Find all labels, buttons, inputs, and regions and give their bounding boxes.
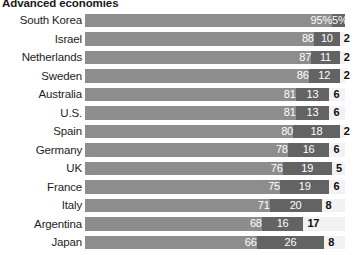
bar-value-tertiary: 2 — [344, 32, 350, 46]
bar-area: 681617 — [85, 217, 345, 231]
row-category-label: Spain — [0, 124, 82, 138]
row-category-label: France — [0, 180, 82, 194]
bar-value-secondary: 13 — [296, 106, 330, 120]
bar-area: 88102 — [85, 32, 345, 46]
row-category-label: Germany — [0, 143, 82, 157]
bar-area: 80182 — [85, 125, 345, 139]
row-category-label: Netherlands — [0, 50, 82, 64]
bar-value-tertiary: 8 — [326, 199, 332, 213]
chart-row: Spain80182 — [0, 124, 356, 143]
chart-row: U.S.81136 — [0, 106, 356, 125]
chart-row: Argentina681617 — [0, 217, 356, 236]
bar-value-primary: 66 — [85, 236, 261, 250]
bar-value-tertiary: 2 — [344, 69, 350, 83]
chart-row: Netherlands87112 — [0, 50, 356, 69]
chart-row: France75196 — [0, 180, 356, 199]
bar-area: 78166 — [85, 143, 345, 157]
bar-area: 75196 — [85, 180, 345, 194]
bar-value-primary: 95% — [85, 14, 336, 28]
row-category-label: Japan — [0, 235, 82, 249]
row-category-label: UK — [0, 161, 82, 175]
bar-value-tertiary: 6 — [333, 106, 339, 120]
bar-value-primary: 87 — [85, 51, 315, 65]
bar-value-tertiary: 6 — [333, 180, 339, 194]
bar-value-secondary: 26 — [257, 236, 325, 250]
bar-area: 66268 — [85, 236, 345, 250]
chart-rows: South Korea95%5%Israel88102Netherlands87… — [0, 13, 356, 254]
bar-value-secondary: 16 — [262, 217, 304, 231]
bar-value-primary: 78 — [85, 143, 292, 157]
bar-area: 86122 — [85, 69, 345, 83]
bar-value-tertiary: 8 — [328, 236, 334, 250]
chart-row: Japan66268 — [0, 235, 356, 254]
row-category-label: Israel — [0, 32, 82, 46]
chart-row: UK76195 — [0, 161, 356, 180]
row-category-label: Australia — [0, 87, 82, 101]
bar-value-secondary: 18 — [293, 125, 340, 139]
bar-value-secondary: 5% — [332, 14, 345, 28]
chart-row: Australia81136 — [0, 87, 356, 106]
bar-value-tertiary: 17 — [307, 217, 319, 231]
bar-value-secondary: 13 — [296, 88, 330, 102]
bar-value-primary: 81 — [85, 88, 300, 102]
bar-value-secondary: 19 — [283, 162, 332, 176]
bar-area: 81136 — [85, 106, 345, 120]
bar-value-primary: 68 — [85, 217, 266, 231]
bar-value-primary: 71 — [85, 199, 274, 213]
bar-value-primary: 86 — [85, 69, 313, 83]
row-category-label: Argentina — [0, 217, 82, 231]
bar-value-tertiary: 5 — [336, 162, 342, 176]
chart-row: Germany78166 — [0, 143, 356, 162]
bar-value-tertiary: 2 — [344, 125, 350, 139]
bar-value-tertiary: 2 — [344, 51, 350, 65]
bar-area: 76195 — [85, 162, 345, 176]
stacked-bar-chart: Advanced economies South Korea95%5%Israe… — [0, 0, 356, 255]
bar-area: 81136 — [85, 88, 345, 102]
bar-area: 71208 — [85, 199, 345, 213]
row-category-label: South Korea — [0, 13, 82, 27]
bar-area: 87112 — [85, 51, 345, 65]
bar-value-secondary: 20 — [270, 199, 322, 213]
chart-row: South Korea95%5% — [0, 13, 356, 32]
bar-value-tertiary: 6 — [333, 143, 339, 157]
chart-row: Italy71208 — [0, 198, 356, 217]
bar-value-tertiary: 6 — [333, 88, 339, 102]
bar-value-secondary: 11 — [311, 51, 340, 65]
chart-row: Israel88102 — [0, 32, 356, 51]
bar-value-secondary: 16 — [288, 143, 330, 157]
chart-title: Advanced economies — [2, 0, 118, 9]
bar-value-secondary: 19 — [280, 180, 329, 194]
bar-value-primary: 75 — [85, 180, 284, 194]
bar-area: 95%5% — [85, 14, 345, 28]
row-category-label: Sweden — [0, 69, 82, 83]
bar-value-primary: 80 — [85, 125, 297, 139]
chart-row: Sweden86122 — [0, 69, 356, 88]
bar-value-primary: 81 — [85, 106, 300, 120]
bar-value-primary: 88 — [85, 32, 318, 46]
row-category-label: U.S. — [0, 106, 82, 120]
row-category-label: Italy — [0, 198, 82, 212]
bar-value-primary: 76 — [85, 162, 287, 176]
bar-value-secondary: 10 — [314, 32, 340, 46]
bar-value-secondary: 12 — [309, 69, 340, 83]
